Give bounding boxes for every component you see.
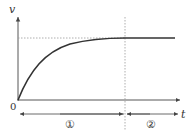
phase-1-label: ① (65, 118, 75, 131)
x-axis-label: t (181, 108, 186, 121)
origin-label: 0 (10, 101, 16, 112)
phase-2-label: ② (146, 118, 156, 131)
velocity-curve (18, 38, 175, 100)
vt-diagram: v t 0 ① ② (0, 0, 190, 132)
y-axis-label: v (9, 3, 16, 16)
